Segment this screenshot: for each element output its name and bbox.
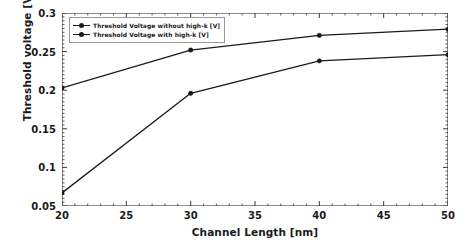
legend-item: Threshold Voltage without high-k [V] [73,21,220,30]
legend-item-label: Threshold Voltage with high-k [V] [93,30,209,39]
data-point [446,27,448,31]
x-tick-label: 25 [106,210,146,221]
data-line [62,55,448,193]
data-point [446,52,448,56]
x-tick-label: 30 [171,210,211,221]
data-point [188,91,192,95]
legend-item: Threshold Voltage with high-k [V] [73,30,220,39]
x-tick-label: 40 [299,210,339,221]
data-point [188,48,192,52]
data-point [317,33,321,37]
legend: Threshold Voltage without high-k [V] Thr… [69,17,225,43]
x-tick-label: 45 [364,210,404,221]
x-tick-label: 20 [42,210,82,221]
data-point [62,191,64,195]
legend-item-label: Threshold Voltage without high-k [V] [93,21,220,30]
x-tick-label: 35 [235,210,275,221]
legend-marker-icon [73,30,90,39]
legend-marker-icon [73,21,90,30]
x-axis-label: Channel Length [nm] [62,226,448,238]
data-point [317,59,321,63]
x-tick-label: 50 [428,210,467,221]
data-point [62,86,64,90]
figure: Threshold voltage [V] 0.050.10.150.20.25… [0,0,467,247]
